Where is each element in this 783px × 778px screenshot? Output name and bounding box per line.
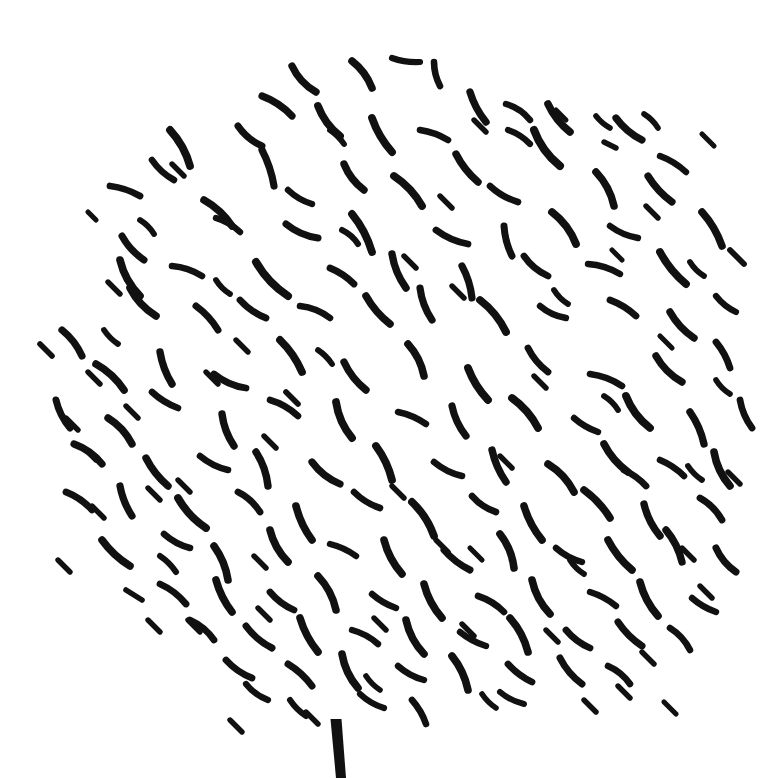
background: [0, 0, 783, 778]
dash-tree-illustration: [0, 0, 783, 778]
artwork-canvas: A tree rendered as a dense round canopy …: [0, 0, 783, 778]
